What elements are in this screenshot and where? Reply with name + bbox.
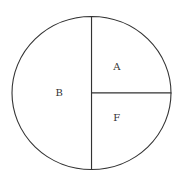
slice-label-f: F [113, 112, 120, 123]
pie-slice-a [92, 17, 172, 94]
pie-slice-b [12, 17, 92, 170]
pie-slice-f [92, 93, 172, 170]
pie-chart: AFB [0, 0, 182, 179]
slice-label-a: A [112, 61, 121, 72]
slice-label-b: B [56, 87, 63, 98]
